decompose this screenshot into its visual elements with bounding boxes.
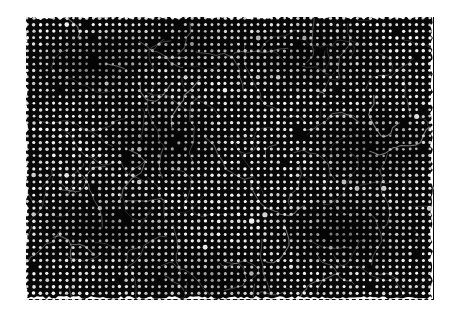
halftone-photograph-plate (26, 17, 434, 300)
scan-scratch-artifacts (26, 17, 434, 300)
page-canvas (0, 0, 462, 316)
